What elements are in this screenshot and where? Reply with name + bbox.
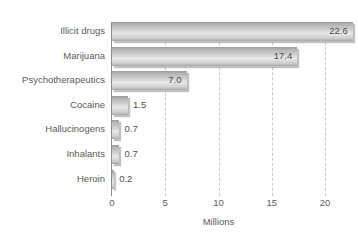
category-label: Hallucinogens	[45, 122, 105, 136]
x-tick-label: 20	[320, 197, 331, 209]
bar: 17.4	[112, 47, 297, 66]
gridline-20	[325, 22, 326, 196]
x-axis-tick-labels: 05101520	[112, 197, 325, 211]
category-label: Heroin	[77, 172, 105, 186]
category-label: Illicit drugs	[60, 24, 105, 38]
bar-row: Cocaine1.5	[112, 96, 325, 115]
x-tick-label: 0	[109, 197, 114, 209]
bar-chart-figure: Illicit drugs22.6Marijuana17.4Psychother…	[0, 0, 358, 240]
bar-row: Hallucinogens0.7	[112, 120, 325, 139]
bar-row: Heroin0.2	[112, 170, 325, 189]
bar-value-label: 0.2	[119, 172, 132, 186]
bar-row: Illicit drugs22.6	[112, 22, 325, 41]
bar-row: Psychotherapeutics7.0	[112, 71, 325, 90]
x-tick-label: 10	[213, 197, 224, 209]
bar: 22.6	[112, 22, 353, 41]
bar: 1.5	[112, 96, 128, 115]
bar: 0.2	[112, 170, 114, 189]
category-label: Cocaine	[70, 98, 105, 112]
x-tick-label: 5	[163, 197, 168, 209]
x-tick-label: 15	[266, 197, 277, 209]
category-label: Inhalants	[66, 147, 105, 161]
bar-value-label: 17.4	[274, 49, 293, 63]
bar-value-label: 0.7	[124, 122, 137, 136]
category-label: Marijuana	[63, 49, 105, 63]
bar-row: Inhalants0.7	[112, 145, 325, 164]
category-label: Psychotherapeutics	[22, 73, 105, 87]
plot-area: Illicit drugs22.6Marijuana17.4Psychother…	[112, 22, 325, 194]
bar-value-label: 1.5	[133, 98, 146, 112]
bar-value-label: 22.6	[329, 24, 348, 38]
x-axis-title: Millions	[112, 216, 325, 227]
bar-value-label: 0.7	[124, 147, 137, 161]
bar: 0.7	[112, 145, 119, 164]
bar-value-label: 7.0	[168, 73, 181, 87]
bar-row: Marijuana17.4	[112, 47, 325, 66]
bar: 0.7	[112, 120, 119, 139]
bar: 7.0	[112, 71, 187, 90]
